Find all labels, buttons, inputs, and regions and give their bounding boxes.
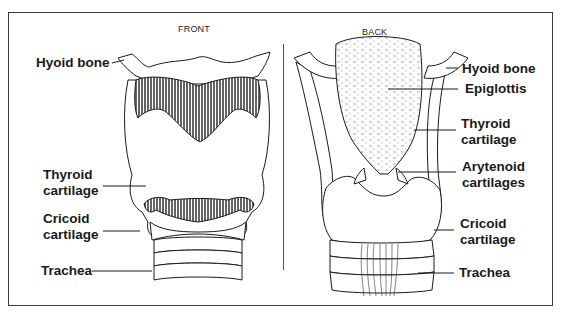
label-text: Epiglottis [465,81,527,96]
back-arytenoid-left [354,168,366,184]
back-label-cricoid-cartilage: Cricoid cartilage [460,216,516,248]
label-text-line2: cartilages [462,175,525,191]
label-text-line2: cartilage [43,227,99,243]
back-trachea [330,240,434,296]
back-larynx [294,37,468,297]
back-label-hyoid-bone: Hyoid bone [462,61,536,77]
label-text-line2: cartilage [460,232,516,248]
back-label-trachea: Trachea [459,265,510,281]
back-epiglottis [336,37,422,175]
front-larynx [118,52,270,280]
back-label-epiglottis: Epiglottis [465,81,527,97]
back-arytenoid-right [396,168,408,184]
label-text: Trachea [41,263,92,278]
front-label-thyroid-cartilage: Thyroid cartilage [43,167,99,199]
front-trachea [154,237,242,280]
back-cricoid-cartilage [323,176,442,244]
label-text: Trachea [459,265,510,280]
label-text-line2: cartilage [43,183,99,199]
label-text-line1: Cricoid [460,216,516,232]
label-text-line1: Arytenoid [462,159,525,175]
label-text: Hyoid bone [36,55,110,70]
label-text-line2: cartilage [461,132,517,148]
front-label-cricoid-cartilage: Cricoid cartilage [43,211,99,243]
label-text: Hyoid bone [462,61,536,76]
label-text-line1: Thyroid [43,167,99,183]
label-text-line1: Thyroid [461,116,517,132]
label-text-line1: Cricoid [43,211,99,227]
front-label-hyoid-bone: Hyoid bone [36,55,110,71]
back-label-thyroid-cartilage: Thyroid cartilage [461,116,517,148]
back-label-arytenoid-cartilages: Arytenoid cartilages [462,159,525,191]
front-label-trachea: Trachea [41,263,92,279]
